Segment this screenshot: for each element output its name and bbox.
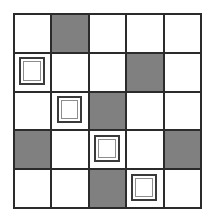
inner-square-r2-c1	[19, 57, 44, 84]
grid-cell-r5-c5[interactable]	[165, 170, 200, 207]
grid-cell-r3-c1[interactable]	[15, 93, 50, 130]
grid-pattern-figure	[0, 0, 213, 220]
grid-cell-r5-c3[interactable]	[90, 170, 125, 207]
grid-cell-r4-c4[interactable]	[127, 131, 162, 168]
grid-cell-r2-c5[interactable]	[165, 54, 200, 91]
grid-cell-r5-c4[interactable]	[127, 170, 162, 207]
inner-square-r4-c3	[94, 135, 119, 162]
grid-cell-r4-c2[interactable]	[52, 131, 87, 168]
grid-cell-r1-c2[interactable]	[52, 15, 87, 52]
grid-cell-r4-c1[interactable]	[15, 131, 50, 168]
grid-cell-r2-c4[interactable]	[127, 54, 162, 91]
grid-cell-r3-c3[interactable]	[90, 93, 125, 130]
grid-cell-r3-c5[interactable]	[165, 93, 200, 130]
inner-square-r3-c2	[57, 96, 82, 123]
grid-cell-r2-c2[interactable]	[52, 54, 87, 91]
grid-cell-r2-c3[interactable]	[90, 54, 125, 91]
grid-cell-r2-c1[interactable]	[15, 54, 50, 91]
grid-cell-r5-c1[interactable]	[15, 170, 50, 207]
grid-cell-r3-c2[interactable]	[52, 93, 87, 130]
grid-cell-r3-c4[interactable]	[127, 93, 162, 130]
grid-cell-r1-c1[interactable]	[15, 15, 50, 52]
five-by-five-grid	[13, 13, 202, 209]
grid-cell-r5-c2[interactable]	[52, 170, 87, 207]
grid-cell-r4-c5[interactable]	[165, 131, 200, 168]
inner-square-r5-c4	[131, 174, 156, 201]
grid-cell-r1-c4[interactable]	[127, 15, 162, 52]
grid-cell-r4-c3[interactable]	[90, 131, 125, 168]
grid-cell-r1-c3[interactable]	[90, 15, 125, 52]
grid-cell-r1-c5[interactable]	[165, 15, 200, 52]
